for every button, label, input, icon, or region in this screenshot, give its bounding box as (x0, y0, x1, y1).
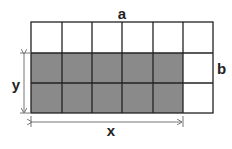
y-dimension-arrow (20, 53, 30, 113)
label-a: a (118, 5, 127, 22)
label-y: y (12, 76, 21, 93)
grid-diagram: a b y x (0, 0, 232, 149)
label-x: x (107, 122, 116, 139)
label-b: b (217, 60, 226, 77)
